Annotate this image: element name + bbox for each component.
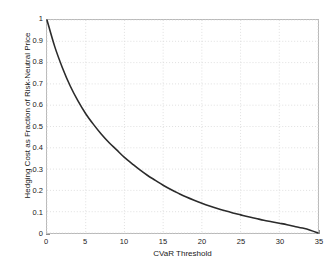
y-axis-title: Hedging Cost as Fraction of Risk-Neutral… bbox=[23, 8, 32, 223]
y-tick-label: 0.2 bbox=[33, 187, 43, 195]
y-tick-label: 0.5 bbox=[33, 123, 43, 131]
y-tick-label: 0.3 bbox=[33, 166, 43, 174]
y-tick-label: 0.1 bbox=[33, 209, 43, 217]
y-tick-label: 0.7 bbox=[33, 80, 43, 88]
x-tick-mark bbox=[319, 230, 320, 234]
x-tick-label: 5 bbox=[72, 238, 98, 246]
y-tick-label: 0.4 bbox=[33, 144, 43, 152]
x-tick-label: 25 bbox=[228, 238, 254, 246]
x-tick-label: 35 bbox=[306, 238, 332, 246]
y-tick-mark bbox=[46, 234, 50, 235]
y-tick-label: 0.8 bbox=[33, 58, 43, 66]
x-tick-label: 10 bbox=[111, 238, 137, 246]
x-tick-label: 15 bbox=[150, 238, 176, 246]
x-tick-label: 30 bbox=[267, 238, 293, 246]
y-tick-label: 1 bbox=[39, 15, 43, 23]
y-tick-label: 0 bbox=[39, 230, 43, 238]
x-tick-label: 20 bbox=[189, 238, 215, 246]
y-tick-label: 0.6 bbox=[33, 101, 43, 109]
y-tick-label: 0.9 bbox=[33, 37, 43, 45]
x-tick-label: 0 bbox=[33, 238, 59, 246]
plot-area bbox=[46, 19, 319, 234]
chart-figure: 00.10.20.30.40.50.60.70.80.91 0510152025… bbox=[0, 0, 335, 276]
data-series-line bbox=[47, 20, 318, 233]
x-axis-title: CVaR Threshold bbox=[46, 249, 319, 258]
